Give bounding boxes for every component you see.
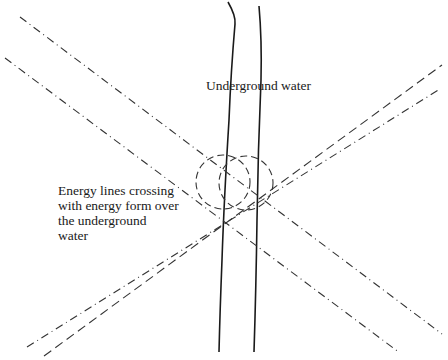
energy-label-line-1: Energy lines crossing	[58, 183, 179, 198]
energy-crossing-label: Energy lines crossing with energy form o…	[58, 183, 179, 243]
stream-right-bank	[254, 6, 261, 352]
diagram-canvas	[0, 0, 448, 360]
energy-label-line-2: with energy form over	[58, 198, 179, 213]
energy-line-a1	[20, 17, 442, 334]
energy-label-line-4: water	[58, 228, 179, 243]
energy-label-line-3: the underground	[58, 213, 179, 228]
underground-water-label: Underground water	[206, 78, 311, 93]
energy-form-circle-left	[196, 155, 250, 209]
stream-left-bank	[219, 2, 235, 352]
energy-form-circle-right	[219, 156, 273, 210]
